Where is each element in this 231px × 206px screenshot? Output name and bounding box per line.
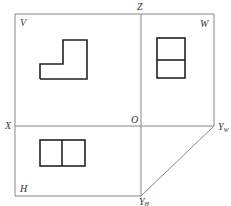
label-v: V <box>20 17 28 28</box>
label-x: X <box>4 120 12 131</box>
label-o: O <box>131 114 138 125</box>
projection-diagram: V W H X Z O YW YH <box>0 0 231 206</box>
label-z: Z <box>137 1 143 12</box>
front-view-l-shape <box>40 40 87 79</box>
side-view-rect <box>157 38 185 78</box>
label-h: H <box>19 183 28 194</box>
label-yw: YW <box>218 121 230 133</box>
projection-svg: V W H X Z O YW YH <box>0 0 231 206</box>
transfer-line <box>141 126 214 196</box>
label-yh: YH <box>139 196 150 206</box>
label-w: W <box>200 18 210 29</box>
